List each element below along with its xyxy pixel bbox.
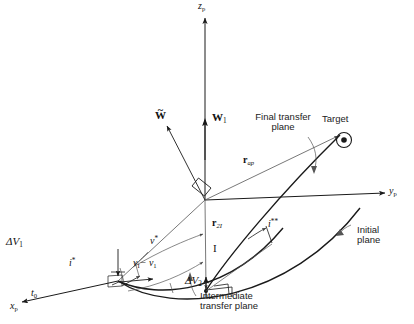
vector-r-2I [205, 200, 206, 289]
vector-w-tilde [167, 126, 205, 200]
label-w-1: W1 [212, 112, 227, 126]
callout-target: Target [322, 114, 348, 124]
callout-line-2: plane [357, 235, 380, 245]
label-w-tilde: ~ W [155, 110, 166, 122]
label-v-star: v* [150, 236, 158, 247]
vector-delta-v1 [111, 249, 125, 276]
callout-intermediate-transfer-plane: Intermediate transfer plane [200, 291, 258, 312]
label-delta-v1: ΔV1 [6, 236, 23, 250]
label-point-I: I [213, 243, 217, 255]
callout-line-2: plane [245, 122, 321, 132]
label-t0: t0 [31, 288, 37, 299]
label-v-I-minus-v-1: vI− v1 [133, 258, 157, 269]
callout-line-2: transfer plane [200, 301, 258, 311]
curve-final-transfer-plane [205, 135, 340, 292]
label-r-2I: r2I [212, 218, 222, 229]
target-marker [337, 133, 352, 148]
label-i-star: i* [69, 258, 75, 269]
callout-final-transfer-plane: Final transfer plane [245, 112, 321, 133]
leader-final-transfer-plane [308, 137, 317, 174]
label-r-ap: rap [243, 155, 254, 166]
tilde-accent: ~ [158, 104, 163, 115]
axis-label-yp: yp [389, 186, 397, 197]
axis-label-xp: xp [10, 301, 18, 312]
axis-label-zp: zp [198, 1, 205, 12]
diagram-geometry [0, 0, 414, 324]
vector-r-ap [205, 136, 338, 200]
curve-initial-plane [118, 208, 360, 299]
axis-zp [202, 18, 208, 200]
label-delta-v2: ΔV2 [185, 275, 202, 289]
axis-yp [205, 193, 385, 200]
orbital-transfer-diagram: zp yp xp t0 ~ W W1 rap r2I v* vI− v1 ΔV1 [0, 0, 414, 324]
callout-initial-plane: Initial plane [357, 225, 380, 246]
angle-i-double-star [206, 226, 272, 291]
label-i-double-star: i** [268, 219, 278, 230]
